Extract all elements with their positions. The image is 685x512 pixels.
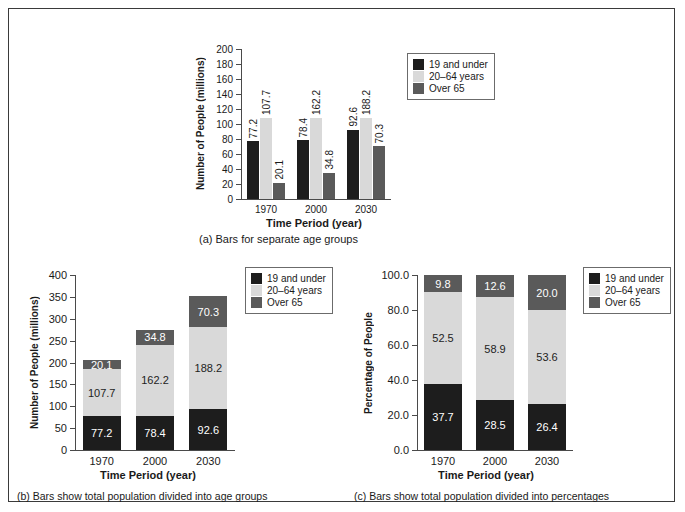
y-axis-tick-mark: [70, 275, 75, 276]
bar-value-label: 107.7: [261, 90, 272, 115]
bar-value-label: 78.4: [298, 118, 309, 137]
y-axis-tick-mark: [70, 384, 75, 385]
y-axis-tick-label: 100: [216, 119, 233, 130]
legend-swatch-icon: [589, 297, 600, 308]
y-axis-line: [75, 275, 76, 450]
bar-value-label: 70.3: [374, 124, 385, 143]
x-axis-line: [417, 450, 573, 451]
y-axis-tick-label: 40: [222, 164, 233, 175]
y-axis-tick-mark: [412, 450, 417, 451]
legend-swatch-icon: [413, 59, 424, 70]
y-axis-line: [417, 275, 418, 450]
legend-item-2: Over 65: [413, 83, 488, 94]
y-axis-tick-label: 200: [49, 357, 67, 369]
panel-c-caption: (c) Bars show total population divided i…: [354, 490, 609, 502]
y-axis-tick-mark: [236, 49, 241, 50]
y-axis-tick-mark: [412, 380, 417, 381]
legend-item-label: Over 65: [605, 297, 641, 308]
legend-item-label: 20–64 years: [605, 285, 660, 296]
legend-item-label: Over 65: [267, 297, 303, 308]
y-axis-tick-label: 300: [49, 313, 67, 325]
y-axis-tick-mark: [412, 345, 417, 346]
legend-swatch-icon: [251, 285, 262, 296]
x-axis-tick-label: 2000: [143, 455, 167, 467]
legend-item-1: 20–64 years: [413, 71, 488, 82]
bar-segment: [260, 118, 272, 199]
legend-swatch-icon: [251, 297, 262, 308]
y-axis-tick-mark: [236, 169, 241, 170]
y-axis-tick-mark: [236, 139, 241, 140]
y-axis-tick-label: 400: [49, 269, 67, 281]
y-axis-tick-mark: [70, 363, 75, 364]
y-axis-tick-mark: [70, 406, 75, 407]
bar-segment: [373, 146, 385, 199]
legend-item-0: 19 and under: [251, 273, 326, 284]
panel-b-plot-area: 05010015020025030035040019702000203077.2…: [75, 275, 235, 450]
bar-value-label: 188.2: [189, 362, 227, 374]
y-axis-tick-mark: [70, 450, 75, 451]
bar-value-label: 78.4: [136, 427, 174, 439]
bar-value-label: 34.8: [136, 331, 174, 343]
panel-b-caption: (b) Bars show total population divided i…: [17, 490, 267, 502]
panel-a-plot-area: 0204060801001201401601802001970200020307…: [241, 49, 391, 199]
panel-c-y-axis-title: Percentage of People: [363, 281, 374, 446]
bar-value-label: 92.6: [189, 424, 227, 436]
y-axis-tick-label: 60: [222, 149, 233, 160]
legend-item-1: 20–64 years: [589, 285, 664, 296]
bar-value-label: 52.5: [424, 332, 462, 344]
y-axis-tick-label: 100: [49, 400, 67, 412]
bar-segment: [323, 173, 335, 199]
bar-value-label: 20.0: [528, 287, 566, 299]
bar-value-label: 12.6: [476, 280, 514, 292]
x-axis-tick-label: 2000: [305, 204, 327, 215]
y-axis-tick-mark: [412, 275, 417, 276]
bar-segment: [347, 130, 359, 199]
panel-c-x-axis-title: Time Period (year): [321, 469, 651, 481]
y-axis-tick-mark: [70, 341, 75, 342]
panel-a-grouped-bar-chart: Number of People (millions) 020406080100…: [189, 31, 439, 226]
y-axis-tick-mark: [70, 428, 75, 429]
y-axis-tick-label: 20.0: [388, 409, 409, 421]
y-axis-tick-mark: [236, 109, 241, 110]
x-axis-line: [241, 199, 391, 200]
panel-a-legend: 19 and under20–64 yearsOver 65: [407, 53, 495, 100]
legend-item-label: 20–64 years: [267, 285, 322, 296]
bar-value-label: 53.6: [528, 351, 566, 363]
panel-a-x-axis-title: Time Period (year): [189, 217, 439, 229]
y-axis-tick-label: 350: [49, 291, 67, 303]
x-axis-tick-label: 2030: [535, 455, 559, 467]
legend-item-label: 19 and under: [605, 273, 664, 284]
legend-item-0: 19 and under: [589, 273, 664, 284]
y-axis-tick-mark: [236, 154, 241, 155]
bar-value-label: 92.6: [348, 107, 359, 126]
bar-value-label: 70.3: [189, 306, 227, 318]
legend-swatch-icon: [251, 273, 262, 284]
y-axis-tick-label: 40.0: [388, 374, 409, 386]
y-axis-tick-label: 180: [216, 59, 233, 70]
bar-value-label: 9.8: [424, 278, 462, 290]
bar-segment: [310, 118, 322, 199]
bar-value-label: 162.2: [311, 90, 322, 115]
y-axis-tick-label: 200: [216, 44, 233, 55]
bar-value-label: 20.1: [274, 160, 285, 179]
bar-value-label: 34.8: [324, 150, 335, 169]
y-axis-tick-label: 80: [222, 134, 233, 145]
legend-swatch-icon: [413, 71, 424, 82]
bar-value-label: 58.9: [476, 343, 514, 355]
legend-swatch-icon: [413, 83, 424, 94]
y-axis-tick-label: 120: [216, 104, 233, 115]
y-axis-tick-mark: [236, 124, 241, 125]
legend-item-2: Over 65: [589, 297, 664, 308]
y-axis-tick-mark: [70, 297, 75, 298]
x-axis-tick-label: 1970: [89, 455, 113, 467]
bar-segment: [360, 118, 372, 199]
bar-segment: [297, 140, 309, 199]
y-axis-tick-mark: [70, 319, 75, 320]
bar-value-label: 28.5: [476, 419, 514, 431]
y-axis-tick-label: 100.0: [381, 269, 409, 281]
y-axis-tick-label: 0: [227, 194, 233, 205]
y-axis-tick-mark: [236, 79, 241, 80]
y-axis-tick-label: 140: [216, 89, 233, 100]
bar-segment: [273, 183, 285, 200]
y-axis-tick-label: 80.0: [388, 304, 409, 316]
